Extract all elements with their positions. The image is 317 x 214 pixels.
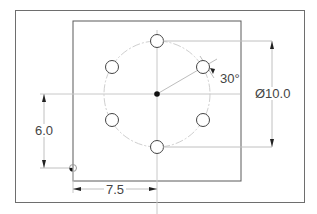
vertical-offset-label: 6.0	[35, 124, 53, 137]
center-mark	[154, 91, 160, 97]
v-arrow-top-icon	[42, 94, 46, 102]
hole-bottom	[151, 141, 164, 154]
dia-arrow-top-icon	[270, 41, 274, 49]
hole-lower-left	[106, 114, 119, 127]
angle-label: 30°	[220, 72, 240, 85]
v-arrow-bottom-icon	[42, 160, 46, 168]
hole-upper-left	[106, 61, 119, 74]
horizontal-offset-label: 7.5	[104, 183, 126, 196]
hole-lower-right	[197, 114, 210, 127]
technical-drawing	[0, 0, 317, 214]
h-arrow-right-icon	[149, 187, 157, 191]
h-arrow-left-icon	[73, 187, 81, 191]
hole-top	[151, 35, 164, 48]
hole-upper-right	[197, 61, 210, 74]
dia-arrow-bottom-icon	[270, 139, 274, 147]
diameter-label: Ø10.0	[255, 87, 290, 100]
origin-quadrant	[70, 168, 74, 172]
